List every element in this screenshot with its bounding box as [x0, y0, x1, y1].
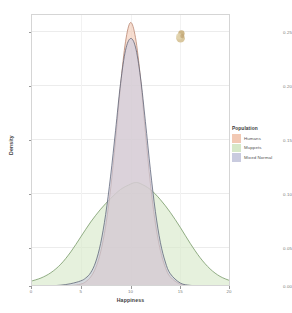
legend-item-humans[interactable]: Humans: [232, 134, 290, 143]
y-tick-label-0.10: 0.10: [266, 192, 292, 197]
legend-item-label: Muppets: [244, 145, 262, 151]
density-curves: [31, 14, 230, 286]
density-plot-figure: 0.00 0.05 0.10 0.15 0.20 0.25 Density 0 …: [0, 0, 292, 313]
y-tick-label-0.25: 0.25: [266, 30, 292, 35]
legend-swatch-icon: [232, 144, 241, 153]
x-tick-label-20: 20: [217, 289, 241, 294]
y-tick-label-0.05: 0.05: [266, 246, 292, 251]
legend-item-label: Humans: [244, 136, 261, 142]
legend-item-muppets[interactable]: Muppets: [232, 144, 290, 153]
legend-item-label: Mixed Normal: [244, 155, 272, 161]
y-axis-title: Density: [8, 115, 14, 175]
legend-swatch-icon: [232, 153, 241, 162]
y-tick-label-0.00: 0.00: [266, 284, 292, 289]
x-tick-label-5: 5: [69, 289, 93, 294]
x-axis-title: Happiness: [31, 297, 230, 303]
x-tick-label-15: 15: [168, 289, 192, 294]
legend-title: Population: [232, 126, 290, 132]
series-mixed-normal: [31, 38, 230, 286]
x-tick-label-0: 0: [19, 289, 43, 294]
x-tick-label-10: 10: [119, 289, 143, 294]
y-tick-label-0.20: 0.20: [266, 84, 292, 89]
legend-item-mixed-normal[interactable]: Mixed Normal: [232, 153, 290, 162]
plot-panel: [31, 14, 230, 286]
legend-swatch-icon: [232, 134, 241, 143]
legend: Population HumansMuppetsMixed Normal: [232, 126, 290, 163]
